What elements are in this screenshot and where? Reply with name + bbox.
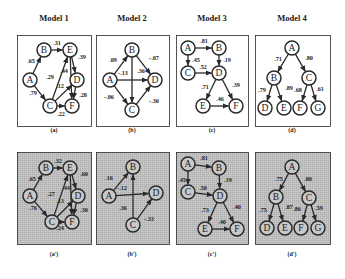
edge-weight-label: .75 (259, 206, 267, 213)
edge-weight-label: .39 (78, 53, 86, 60)
node-B: B (39, 161, 53, 175)
node-D: D (71, 189, 85, 203)
svg-text:D: D (216, 68, 223, 78)
node-D: D (258, 101, 272, 115)
svg-text:C: C (185, 187, 191, 197)
svg-text:C: C (130, 220, 136, 230)
panel-c: .81.45.19.52.71.39.46ABCDEF (177, 36, 249, 127)
panel-d: .71.80.79.89.68.61ABCDEFG (256, 36, 331, 127)
node-D: D (149, 186, 163, 200)
edge-weight-label: .71 (201, 83, 209, 90)
svg-text:E: E (281, 103, 287, 113)
node-D: D (212, 66, 226, 80)
node-G: G (311, 221, 325, 235)
edge-weight-label: .75 (275, 175, 283, 182)
svg-text:A: A (27, 191, 34, 201)
node-B: B (212, 41, 226, 55)
node-E: E (277, 101, 291, 115)
edge-weight-label: .40 (218, 218, 226, 225)
panel-a2: .65.32.60.76.27.44.13.30.24BEADCF (18, 153, 92, 245)
caption-d-prime: (d') (272, 251, 312, 257)
edge-weight-label: .46 (216, 95, 224, 102)
panel-b2: .16-.12.36-.33BADC (97, 153, 170, 245)
edge-weight-label: .81 (200, 154, 208, 161)
edge-weight-label: .45 (178, 176, 186, 183)
svg-text:D: D (152, 75, 159, 85)
node-A: A (181, 41, 195, 55)
svg-text:C: C (306, 73, 312, 83)
edge-weight-label: .60 (80, 170, 88, 177)
svg-text:E: E (67, 163, 73, 173)
edge-weight-label: .09 (109, 56, 117, 63)
svg-text:D: D (264, 223, 271, 233)
edge-weight-label: .79 (258, 86, 266, 93)
edge-weight-label: .40 (233, 203, 241, 210)
node-B: B (125, 43, 139, 57)
node-B: B (269, 190, 283, 204)
panel-c2: .81.45.19.50.73.40.40ABCDEF (177, 153, 249, 245)
node-E: E (278, 221, 292, 235)
node-A: A (181, 157, 195, 171)
edge-weight-label: .44 (62, 184, 70, 191)
svg-text:E: E (200, 101, 206, 111)
svg-text:C: C (185, 68, 191, 78)
node-F: F (229, 99, 243, 113)
svg-text:G: G (315, 223, 322, 233)
node-F: F (65, 99, 79, 113)
edge-weight-label: -.13 (118, 69, 128, 76)
edge-weight-label: -.06 (104, 93, 114, 100)
edge-weight-label: .19 (224, 176, 232, 183)
node-F: F (293, 101, 307, 115)
node-E: E (196, 99, 210, 113)
edge-weight-label: .45 (192, 56, 200, 63)
svg-text:E: E (202, 224, 208, 234)
edge-weight-label: .86 (293, 205, 301, 212)
edge-weight-label: -.33 (144, 215, 154, 222)
svg-text:A: A (185, 43, 192, 53)
edge-weight-label: .80 (305, 54, 313, 61)
node-A: A (103, 73, 117, 87)
edge-weight-label: .44 (60, 67, 68, 74)
node-B: B (212, 161, 226, 175)
node-A: A (23, 73, 37, 87)
edge-weight-label: .12 (56, 82, 64, 89)
caption-c-prime: (c') (192, 251, 232, 257)
edge-weight-label: .81 (200, 37, 208, 44)
node-F: F (65, 215, 79, 229)
edge-weight-label: .76 (29, 204, 37, 211)
svg-text:F: F (69, 101, 74, 111)
caption-a-prime: (a') (34, 251, 74, 257)
caption-c: (c) (192, 127, 232, 133)
svg-text:D: D (75, 191, 82, 201)
svg-text:F: F (233, 101, 238, 111)
caption-a: (a) (34, 127, 74, 133)
edge-weight-label: -.12 (117, 184, 127, 191)
edge-weight-label: .36 (137, 67, 145, 74)
svg-text:F: F (69, 217, 74, 227)
svg-text:D: D (217, 191, 224, 201)
edge-weight-label: .73 (201, 206, 209, 213)
edge-weight-label: .59 (315, 204, 323, 211)
edge-weight-label: .16 (105, 174, 113, 181)
node-C: C (43, 99, 57, 113)
edge-weight-label: .79 (29, 89, 37, 96)
svg-text:B: B (129, 45, 135, 55)
svg-text:B: B (271, 73, 277, 83)
caption-b: (b) (112, 127, 152, 133)
edge-weight-label: .27 (47, 190, 55, 197)
edge-weight-label: .65 (28, 175, 36, 182)
edge-weight-label: .87 (285, 203, 293, 210)
edge-weight-label: .29 (46, 73, 54, 80)
node-D: D (213, 189, 227, 203)
svg-text:A: A (289, 162, 296, 172)
node-E: E (63, 43, 77, 57)
edge-weight-label: -.30 (149, 97, 159, 104)
node-F: F (230, 222, 244, 236)
svg-text:A: A (106, 191, 113, 201)
node-C: C (181, 185, 195, 199)
node-D: D (148, 73, 162, 87)
caption-d: (d) (272, 127, 312, 133)
edge-weight-label: .13 (56, 197, 64, 204)
svg-text:F: F (298, 223, 303, 233)
svg-text:F: F (234, 224, 239, 234)
